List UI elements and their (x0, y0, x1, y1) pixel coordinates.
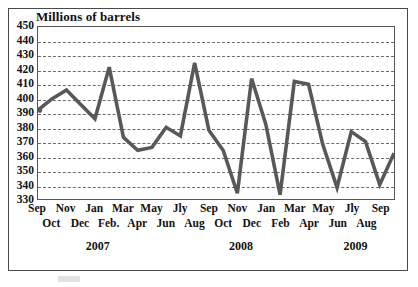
x-axis-tick: Sep (28, 203, 46, 215)
x-axis-year: 2009 (344, 240, 368, 252)
x-axis-tick: Mar (284, 203, 306, 215)
x-axis-tick: Jly (173, 203, 188, 215)
x-axis-tick: Aug (356, 218, 376, 230)
plot-area (37, 26, 395, 200)
y-axis-tick: 370 (4, 136, 34, 148)
y-axis-tick: 400 (4, 93, 34, 105)
chart-title: Millions of barrels (36, 9, 140, 25)
x-axis-tick: Jan (85, 203, 103, 215)
x-axis-tick: Apr (127, 218, 147, 230)
y-axis-tick: 440 (4, 35, 34, 47)
y-axis-tick-labels: 450440430420410400390380370360350340330 (0, 26, 34, 200)
x-axis-tick: Aug (184, 218, 204, 230)
x-axis-year-labels: 200720082009 (37, 240, 395, 258)
x-axis-tick: Sep (372, 203, 390, 215)
x-axis-tick: Jly (345, 203, 360, 215)
x-axis-tick: Mar (112, 203, 134, 215)
y-axis-tick: 410 (4, 78, 34, 90)
y-axis-tick: 380 (4, 122, 34, 134)
x-axis-tick: Jun (328, 218, 347, 230)
chart-figure: Millions of barrels 45044043042041040039… (0, 0, 418, 287)
x-axis-tick: Jan (257, 203, 275, 215)
y-axis-tick: 420 (4, 64, 34, 76)
x-axis-tick: Jun (157, 218, 176, 230)
x-axis-tick: May (312, 203, 334, 215)
data-series-line (38, 27, 394, 199)
x-axis-tick: Dec (243, 218, 262, 230)
x-axis-tick: Apr (299, 218, 319, 230)
x-axis-tick: Oct (214, 218, 232, 230)
x-axis-tick: Feb (271, 218, 290, 230)
x-axis-tick: Nov (56, 203, 76, 215)
y-axis-tick: 450 (4, 20, 34, 32)
x-axis-tick: Nov (228, 203, 248, 215)
x-axis-tick: Oct (42, 218, 60, 230)
x-axis-tick: May (140, 203, 162, 215)
x-axis-tick: Feb. (98, 218, 119, 230)
x-axis-year: 2007 (86, 240, 110, 252)
x-axis-tick: Sep (200, 203, 218, 215)
x-axis-tick-labels: SepOctNovDecJanFeb.MarAprMayJunJlyAugSep… (37, 203, 395, 237)
x-axis-year: 2008 (229, 240, 253, 252)
y-axis-tick: 360 (4, 151, 34, 163)
x-axis-tick: Dec (71, 218, 90, 230)
y-axis-tick: 350 (4, 165, 34, 177)
scan-artifact (58, 276, 80, 282)
y-axis-tick: 390 (4, 107, 34, 119)
y-axis-tick: 340 (4, 180, 34, 192)
y-axis-tick: 430 (4, 49, 34, 61)
